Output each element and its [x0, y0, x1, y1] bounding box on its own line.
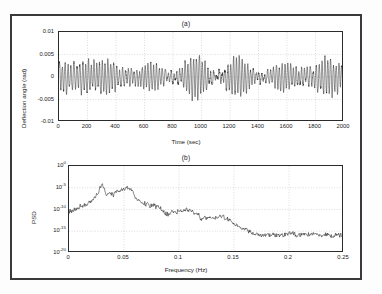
x-tick-label: 2000 — [337, 123, 350, 129]
y-tick-label: 100 — [24, 162, 66, 168]
x-tick-label: 0.1 — [174, 254, 182, 260]
x-tick-label: 600 — [139, 123, 149, 129]
panel-b: (b) PSD Frequency (Hz) 10010-510-1010-15… — [10, 152, 362, 280]
y-tick-label: -0.01 — [14, 118, 54, 124]
x-tick-label: 1800 — [308, 123, 321, 129]
y-tick-label: 10-15 — [24, 227, 66, 233]
y-tick-label: -0.005 — [14, 96, 54, 102]
x-tick-label: 1600 — [280, 123, 293, 129]
x-tick-label: 0 — [56, 123, 59, 129]
y-tick-label: 10-10 — [24, 206, 66, 212]
x-tick-label: 0.05 — [117, 254, 128, 260]
x-tick-label: 1400 — [251, 123, 264, 129]
panel-b-x-axis-label: Frequency (Hz) — [10, 266, 362, 273]
x-tick-label: 0.2 — [284, 254, 292, 260]
x-tick-label: 0.25 — [337, 254, 348, 260]
panel-a-title: (a) — [10, 20, 362, 27]
panel-b-y-axis-label: PSD — [30, 211, 37, 224]
y-tick-label: 0.01 — [14, 28, 54, 34]
figure-container: (a) Deflection angle (rad) Time (sec) -0… — [0, 0, 382, 294]
x-tick-label: 0 — [66, 254, 69, 260]
panel-b-psd-svg — [69, 166, 343, 252]
x-tick-label: 200 — [82, 123, 92, 129]
y-tick-label: 0.005 — [14, 51, 54, 57]
x-tick-label: 1000 — [194, 123, 207, 129]
x-tick-label: 1200 — [223, 123, 236, 129]
panel-a-timeseries-svg — [59, 32, 343, 121]
panel-a-plot-area — [58, 31, 343, 121]
x-tick-label: 400 — [110, 123, 120, 129]
panel-a-x-axis-label: Time (sec) — [10, 138, 362, 145]
y-tick-label: 0 — [14, 73, 54, 79]
panel-b-plot-area — [68, 165, 343, 252]
y-tick-label: 10-20 — [24, 249, 66, 255]
x-tick-label: 0.15 — [227, 254, 238, 260]
x-tick-label: 800 — [167, 123, 177, 129]
panel-a: (a) Deflection angle (rad) Time (sec) -0… — [10, 16, 362, 150]
y-tick-label: 10-5 — [24, 184, 66, 190]
